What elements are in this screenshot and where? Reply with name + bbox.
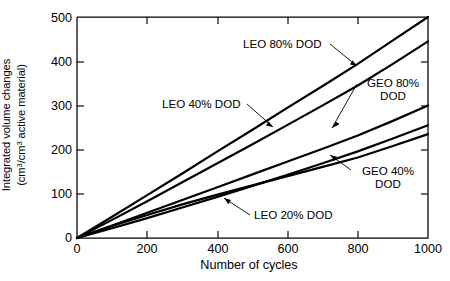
- leader-line-leo-20: [224, 198, 250, 215]
- bottom-axis-ticks: [147, 231, 358, 238]
- left-axis-ticks: [77, 62, 84, 194]
- data-series-layer: [77, 17, 428, 238]
- annotation-geo-80-dod-line2: DOD: [360, 89, 426, 102]
- annotation-geo-80-dod: GEO 80% DOD: [360, 76, 426, 102]
- annotation-geo-80-dod-line1: GEO 80%: [360, 76, 426, 89]
- series-line: [77, 41, 428, 238]
- annotation-geo-40-dod-line2: DOD: [355, 177, 421, 190]
- annotation-leo-80-dod: LEO 80% DOD: [243, 37, 322, 50]
- annotation-geo-40-dod: GEO 40% DOD: [355, 164, 421, 190]
- annotation-leo-40-dod: LEO 40% DOD: [162, 97, 241, 110]
- leader-line-leo-40: [247, 104, 273, 127]
- annotation-geo-40-dod-line1: GEO 40%: [355, 164, 421, 177]
- top-axis-ticks: [147, 17, 358, 24]
- plot-canvas: [0, 0, 450, 281]
- chart-figure: Integrated volume changes (cm3/cm3 activ…: [0, 0, 450, 281]
- annotation-leo-20-dod: LEO 20% DOD: [254, 208, 333, 221]
- leader-line-geo-80: [332, 84, 357, 128]
- leader-line-leo-80: [330, 44, 357, 66]
